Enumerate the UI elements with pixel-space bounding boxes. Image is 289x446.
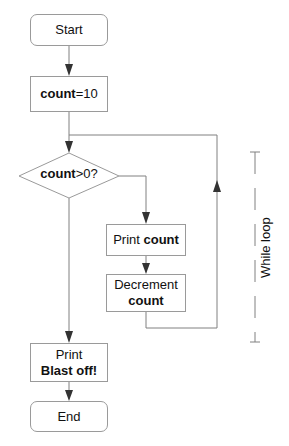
init-label: count=10 (40, 86, 97, 102)
decrement-line2: count (128, 293, 163, 309)
print-blast-line2: Blast off! (41, 363, 97, 379)
condition-label: count>0? (19, 166, 119, 181)
print-count-node: Print count (106, 224, 186, 256)
print-count-label: Print count (113, 232, 179, 248)
decrement-node: Decrement count (106, 274, 186, 312)
print-blast-line1: Print (56, 347, 83, 363)
end-node: End (30, 401, 108, 432)
print-blast-node: Print Blast off! (30, 343, 108, 382)
end-label: End (57, 409, 80, 425)
start-node: Start (30, 14, 108, 46)
while-loop-annotation: While loop (258, 217, 273, 278)
start-label: Start (55, 22, 82, 38)
decrement-line1: Decrement (114, 277, 178, 293)
init-node: count=10 (30, 76, 108, 112)
